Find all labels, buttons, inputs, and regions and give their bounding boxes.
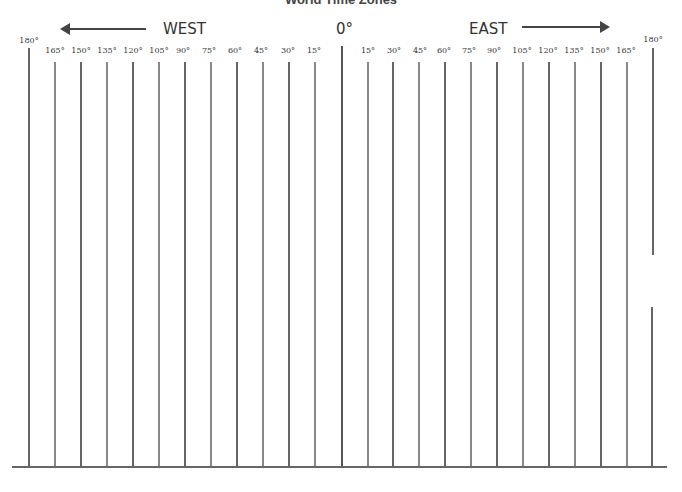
prime-meridian-label: 0° bbox=[336, 20, 353, 38]
meridian-135w bbox=[106, 62, 108, 466]
label-120e: 120° bbox=[538, 46, 557, 55]
west-arrow-icon bbox=[62, 28, 146, 30]
label-150w: 150° bbox=[71, 46, 90, 55]
meridian-15w bbox=[314, 62, 316, 466]
meridian-75e bbox=[470, 62, 472, 466]
label-150e: 150° bbox=[590, 46, 609, 55]
meridian-180e-top bbox=[652, 48, 654, 255]
meridian-105w bbox=[158, 62, 160, 466]
label-15e: 15° bbox=[361, 46, 375, 55]
label-15w: 15° bbox=[307, 46, 321, 55]
meridian-45w bbox=[262, 62, 264, 466]
label-45w: 45° bbox=[254, 46, 268, 55]
meridian-165e bbox=[626, 62, 628, 466]
label-105e: 105° bbox=[512, 46, 531, 55]
label-135w: 135° bbox=[97, 46, 116, 55]
label-60e: 60° bbox=[437, 46, 451, 55]
label-45e: 45° bbox=[413, 46, 427, 55]
label-75w: 75° bbox=[202, 46, 216, 55]
label-75e: 75° bbox=[462, 46, 476, 55]
baseline bbox=[12, 466, 667, 468]
meridian-120e bbox=[548, 62, 550, 466]
meridian-30e bbox=[392, 62, 394, 466]
meridian-180e-bottom bbox=[651, 307, 653, 466]
meridian-150w bbox=[80, 62, 82, 466]
meridian-75w bbox=[210, 62, 212, 466]
meridian-135e bbox=[574, 62, 576, 466]
label-180w: 180° bbox=[19, 36, 38, 45]
west-label: WEST bbox=[163, 20, 206, 38]
meridian-90e bbox=[496, 62, 498, 466]
label-60w: 60° bbox=[228, 46, 242, 55]
label-165w: 165° bbox=[45, 46, 64, 55]
prime-meridian bbox=[341, 46, 343, 466]
meridian-45e bbox=[418, 62, 420, 466]
east-arrow-icon bbox=[522, 26, 608, 28]
meridian-60w bbox=[236, 62, 238, 466]
east-label: EAST bbox=[469, 20, 507, 38]
meridian-60e bbox=[444, 62, 446, 466]
meridian-150e bbox=[600, 62, 602, 466]
label-135e: 135° bbox=[564, 46, 583, 55]
meridian-90w bbox=[184, 62, 186, 466]
label-120w: 120° bbox=[123, 46, 142, 55]
meridian-30w bbox=[288, 62, 290, 466]
label-30e: 30° bbox=[387, 46, 401, 55]
meridian-165w bbox=[54, 62, 56, 466]
label-180e: 180° bbox=[643, 35, 662, 44]
meridian-15e bbox=[367, 62, 369, 466]
meridian-180w bbox=[28, 48, 30, 466]
label-90w: 90° bbox=[176, 46, 190, 55]
label-30w: 30° bbox=[281, 46, 295, 55]
meridian-120w bbox=[132, 62, 134, 466]
meridian-105e bbox=[522, 62, 524, 466]
label-165e: 165° bbox=[616, 46, 635, 55]
label-105w: 105° bbox=[149, 46, 168, 55]
label-90e: 90° bbox=[487, 46, 501, 55]
diagram-title: World Time Zones bbox=[0, 0, 682, 7]
